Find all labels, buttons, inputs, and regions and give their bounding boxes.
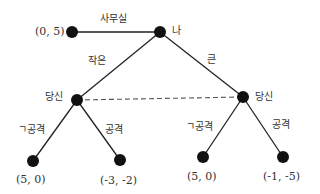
node-label-root: 나 (172, 24, 181, 37)
payoff-terminal-2: (-3, -2) (100, 174, 137, 187)
node-terminal-3 (197, 151, 209, 163)
edge-label-left-attack: 공격 (105, 123, 123, 136)
payoff-terminal-3: (5, 0) (187, 170, 217, 183)
node-label-you-right: 당신 (255, 90, 273, 103)
edge-large (160, 32, 243, 97)
information-set-dashed (77, 97, 243, 100)
node-label-you-left: 당신 (45, 90, 63, 103)
edge-label-right-not-attack: ㄱ공격 (186, 120, 213, 133)
edge-label-left-not-attack: ㄱ공격 (18, 123, 45, 136)
node-office-terminal (66, 26, 78, 38)
node-terminal-1 (27, 155, 39, 167)
edge-label-large: 큰 (207, 53, 216, 66)
node-root (154, 26, 166, 38)
edge-label-small: 작은 (88, 54, 106, 67)
payoff-terminal-4: (-1, -5) (263, 170, 300, 183)
edge-label-office: 사무실 (100, 12, 127, 25)
payoff-office: (0, 5) (35, 25, 65, 38)
node-you-right (237, 91, 249, 103)
node-terminal-2 (114, 154, 126, 166)
edge-label-right-attack: 공격 (272, 118, 290, 131)
payoff-terminal-1: (5, 0) (16, 173, 46, 186)
node-terminal-4 (277, 151, 289, 163)
node-you-left (71, 94, 83, 106)
